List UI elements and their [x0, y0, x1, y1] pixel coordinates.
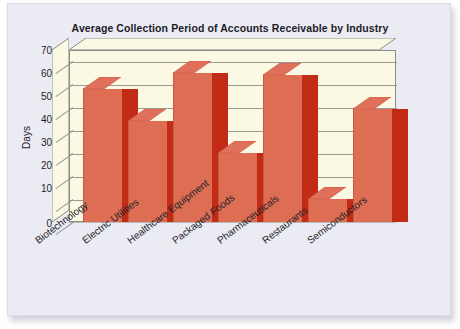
x-label-semiconductors: Semiconductors — [305, 194, 369, 246]
chart-card: Average Collection Period of Accounts Re… — [7, 3, 451, 316]
x-axis-tick-labels: Biotechnology Electric Utilities Healthc… — [8, 4, 452, 317]
x-label-healthcare-equipment: Healthcare Equipment — [125, 177, 211, 245]
